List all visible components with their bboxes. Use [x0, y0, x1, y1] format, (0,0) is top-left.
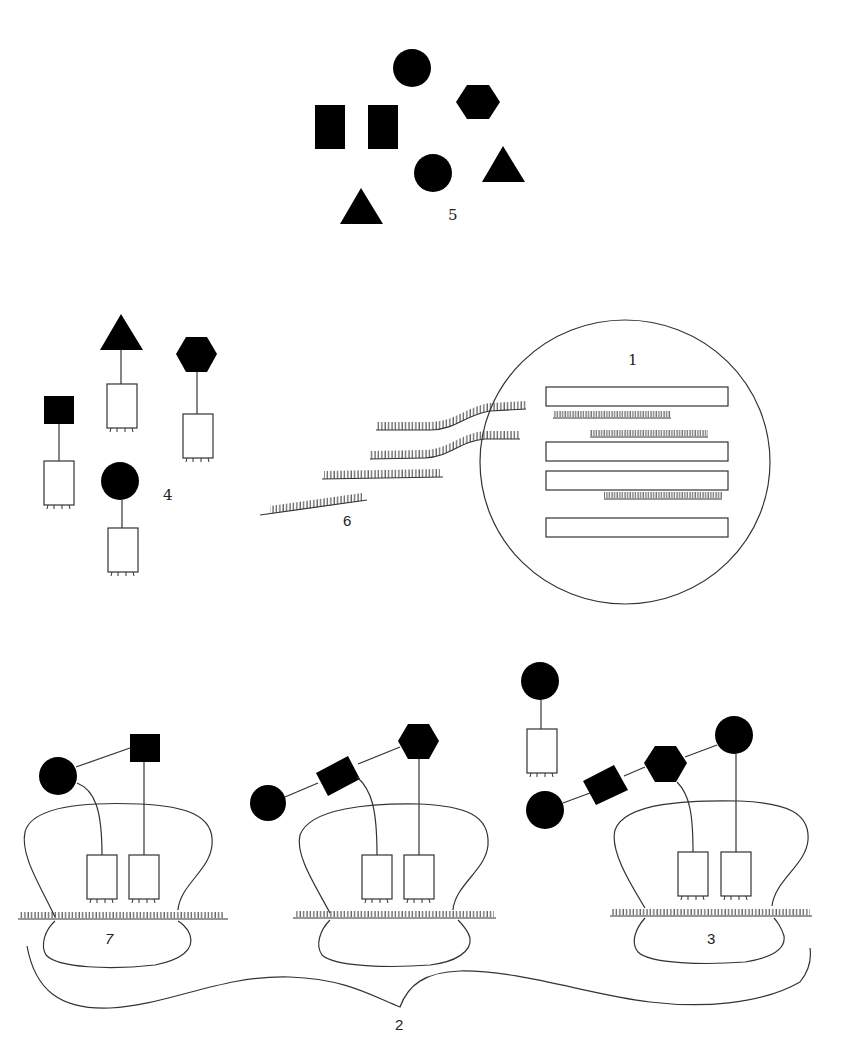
- upper-lobe: [614, 801, 808, 908]
- complex-middle: [250, 724, 496, 966]
- complex-7: 7: [18, 734, 228, 968]
- tethered-box: [678, 852, 708, 896]
- circle-shape: [39, 757, 77, 795]
- hexagon-shape: [456, 85, 500, 119]
- triangle-shape: [100, 314, 143, 350]
- tethered-box: [44, 461, 74, 505]
- hexagon-shape: [176, 337, 217, 372]
- lower-lobe: [43, 921, 191, 968]
- rotated-rectangle-shape: [583, 765, 628, 805]
- group-5-free-shapes: 5: [315, 49, 525, 224]
- tethered-box: [129, 855, 159, 899]
- square-shape: [44, 396, 74, 424]
- rectangle-shape: [368, 105, 398, 149]
- label-7: 7: [105, 930, 114, 947]
- square-shape: [130, 734, 160, 762]
- group-4-tethered-boxes: 4: [44, 314, 217, 576]
- bar: [546, 518, 728, 537]
- tethered-box: [527, 729, 557, 773]
- label-4: 4: [163, 486, 173, 504]
- label-2: 2: [395, 1016, 403, 1033]
- tethered-box: [721, 852, 751, 896]
- label-5: 5: [448, 206, 458, 224]
- brace-curve: [27, 946, 811, 1008]
- group-1-circle: 1: [480, 320, 770, 604]
- circle-shape: [521, 662, 559, 700]
- circle-shape: [101, 462, 139, 500]
- tethered-box: [362, 855, 392, 899]
- tethered-box: [183, 414, 213, 458]
- lower-lobe: [319, 920, 470, 966]
- brace-2: 2: [27, 946, 811, 1033]
- label-3: 3: [707, 930, 715, 947]
- upper-lobe: [299, 804, 488, 913]
- complex-3: 3: [521, 662, 812, 963]
- upper-lobe: [24, 804, 212, 917]
- circle-shape: [414, 154, 452, 192]
- tethered-box: [107, 384, 137, 428]
- label-6: 6: [343, 512, 351, 529]
- hexagon-shape: [644, 746, 687, 782]
- triangle-shape: [340, 188, 383, 224]
- tethered-box: [108, 528, 138, 572]
- circle-shape: [393, 49, 431, 87]
- bar: [546, 387, 728, 406]
- bar: [546, 442, 728, 461]
- circle-shape: [250, 785, 286, 821]
- triangle-shape: [482, 146, 525, 182]
- diagram-canvas: 5 4: [0, 0, 856, 1063]
- rotated-rectangle-shape: [316, 756, 360, 796]
- circle-shape: [526, 791, 564, 829]
- circle-shape: [715, 716, 753, 754]
- bar: [546, 471, 728, 490]
- tethered-box: [404, 855, 434, 899]
- rectangle-shape: [315, 105, 345, 149]
- hexagon-shape: [398, 724, 439, 759]
- label-1: 1: [628, 351, 638, 369]
- tethered-box: [87, 855, 117, 899]
- large-circle-outline: [480, 320, 770, 604]
